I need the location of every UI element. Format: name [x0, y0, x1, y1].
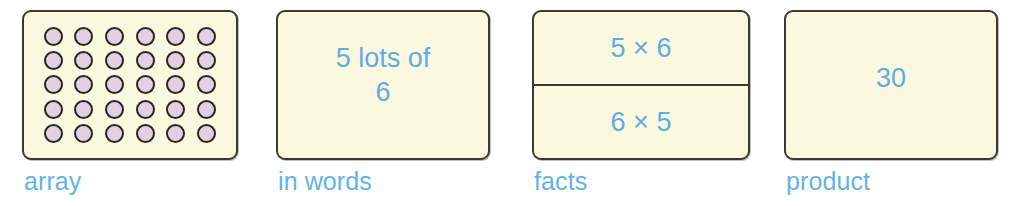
array-dot: [105, 27, 124, 46]
in-words-card-inner: 5 lots of 6: [278, 12, 488, 158]
array-dot: [136, 124, 155, 143]
array-dot: [166, 100, 185, 119]
array-dot: [197, 75, 216, 94]
caption-product: product: [786, 166, 870, 196]
array-dot: [44, 51, 63, 70]
facts-cell-stack: 5 × 6 6 × 5: [534, 12, 748, 158]
array-dot: [74, 124, 93, 143]
array-dot: [197, 51, 216, 70]
array-dot: [44, 124, 63, 143]
product-card: 30: [784, 10, 998, 160]
panel-product: 30 product: [784, 0, 1000, 206]
product-text: 30: [876, 63, 906, 94]
caption-facts: facts: [534, 166, 587, 196]
array-card: [22, 10, 238, 160]
panel-in-words: 5 lots of 6 in words: [276, 0, 492, 206]
fact-cell-bottom: 6 × 5: [534, 86, 748, 158]
array-dot: [105, 124, 124, 143]
caption-in-words: in words: [278, 166, 372, 196]
array-dot: [166, 51, 185, 70]
array-dot: [166, 75, 185, 94]
panel-array: array: [22, 0, 262, 206]
in-words-text: 5 lots of 6: [336, 41, 431, 109]
array-dot: [74, 27, 93, 46]
array-dot: [74, 100, 93, 119]
facts-card: 5 × 6 6 × 5: [532, 10, 750, 160]
array-dot: [105, 51, 124, 70]
array-dot: [136, 51, 155, 70]
in-words-card: 5 lots of 6: [276, 10, 490, 160]
array-dot: [44, 75, 63, 94]
array-dot: [44, 100, 63, 119]
fact-cell-top: 5 × 6: [534, 12, 748, 84]
array-dot: [197, 124, 216, 143]
array-dot: [74, 75, 93, 94]
array-dot: [166, 124, 185, 143]
array-card-inner: [24, 12, 236, 158]
caption-array: array: [24, 166, 81, 196]
array-dot: [105, 75, 124, 94]
array-dot: [166, 27, 185, 46]
array-dot: [136, 100, 155, 119]
dot-array-grid: [24, 12, 236, 158]
array-dot: [197, 27, 216, 46]
array-dot: [197, 100, 216, 119]
array-dot: [136, 27, 155, 46]
array-dot: [105, 100, 124, 119]
product-card-inner: 30: [786, 12, 996, 158]
array-dot: [44, 27, 63, 46]
array-dot: [136, 75, 155, 94]
array-dot: [74, 51, 93, 70]
panel-facts: 5 × 6 6 × 5 facts: [532, 0, 752, 206]
